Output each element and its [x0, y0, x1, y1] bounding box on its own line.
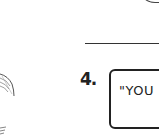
sketch-fragment-icon	[0, 126, 8, 137]
question-number: 4.	[80, 69, 96, 89]
answer-box	[109, 69, 159, 129]
answer-box-text: "YOU (	[119, 83, 159, 98]
arc-drawing-icon	[138, 0, 159, 3]
answer-line-divider	[85, 43, 159, 44]
feather-drawing-icon	[0, 70, 16, 100]
